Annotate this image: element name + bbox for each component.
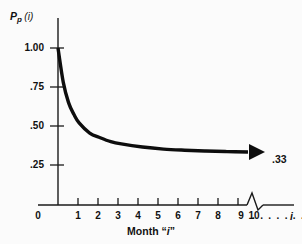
y-tick-label-3: .50: [14, 121, 44, 131]
x-tick-label-6: 6: [170, 211, 186, 221]
x-tick-label-0: 0: [30, 211, 46, 221]
x-axis-title-variable: i: [167, 225, 170, 237]
y-tick-label-1: 1.00: [14, 43, 44, 53]
chart-figure: Pp (i) 1.00 .75 .50 .25 0 1 2 3 4 5 6 7 …: [0, 0, 302, 244]
y-tick-label-2: .75: [14, 82, 44, 92]
x-axis-variable-label: i: [290, 211, 293, 222]
x-tick-label-8: 8: [210, 211, 226, 221]
x-tick-label-1: 1: [70, 211, 86, 221]
y-axis-label-subscript: p: [17, 15, 22, 24]
x-axis-break-zigzag: [247, 193, 263, 210]
curve-arrowhead-icon: [249, 144, 265, 160]
x-tick-label-3: 3: [110, 211, 126, 221]
x-tick-label-4: 4: [130, 211, 146, 221]
y-axis-label: Pp (i): [10, 11, 34, 24]
y-axis-label-arg: (i): [24, 11, 33, 22]
chart-plot-area: [0, 0, 302, 244]
data-curve: [58, 48, 248, 152]
x-tick-label-2: 2: [90, 211, 106, 221]
asymptote-value-label: .33: [272, 154, 287, 165]
x-axis-title: Month “i”: [0, 226, 302, 237]
x-axis-continuation-dots: . . . . . . . . .: [252, 211, 302, 221]
y-tick-label-4: .25: [14, 160, 44, 170]
x-axis-ticks: [78, 198, 238, 205]
x-tick-label-7: 7: [190, 211, 206, 221]
x-tick-label-5: 5: [150, 211, 166, 221]
